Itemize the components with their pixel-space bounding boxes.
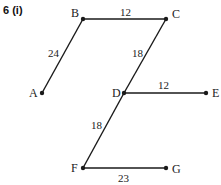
node-f	[81, 166, 85, 170]
label-c: C	[172, 7, 180, 21]
node-g	[164, 166, 168, 170]
length-cd: 18	[132, 47, 144, 59]
node-a	[40, 91, 44, 95]
label-a: A	[29, 86, 38, 100]
label-e: E	[212, 86, 219, 100]
length-ab: 24	[48, 47, 60, 59]
edge-df	[83, 93, 124, 168]
node-d	[122, 91, 126, 95]
node-b	[81, 17, 85, 21]
node-c	[164, 17, 168, 21]
length-df: 18	[91, 119, 103, 131]
label-f: F	[71, 161, 78, 175]
label-d: D	[112, 86, 121, 100]
label-g: G	[172, 162, 181, 176]
length-fg: 23	[118, 172, 130, 184]
network-diagram: A B C D E F G 24 12 18 12 18 23	[0, 0, 221, 185]
length-de: 12	[158, 79, 169, 91]
node-e	[204, 91, 208, 95]
length-bc: 12	[120, 6, 131, 18]
label-b: B	[71, 6, 79, 20]
